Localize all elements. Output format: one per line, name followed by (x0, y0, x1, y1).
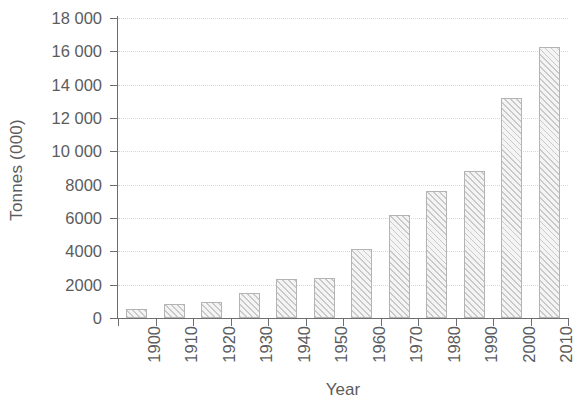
y-tick-mark (110, 51, 118, 52)
bar (276, 279, 297, 318)
y-axis-title: Tonnes (000) (0, 0, 34, 340)
bar (351, 249, 372, 318)
y-tick-label: 4000 (65, 242, 102, 261)
x-tick-mark (456, 319, 457, 326)
y-tick-mark (110, 18, 118, 19)
x-tick-mark (156, 319, 157, 326)
y-tick-mark (110, 218, 118, 219)
bar (464, 171, 485, 318)
y-tick-mark (110, 185, 118, 186)
y-axis-tick-labels: 0200040006000800010 00012 00014 00016 00… (36, 0, 108, 411)
x-tick-mark (193, 319, 194, 326)
x-tick-label: 1970 (407, 326, 425, 386)
x-tick-mark (118, 319, 119, 326)
y-tick-mark (110, 151, 118, 152)
x-tick-label: 1930 (257, 326, 275, 386)
x-tick-mark (343, 319, 344, 326)
y-tick-label: 8000 (65, 175, 102, 194)
y-tick-label: 16 000 (52, 42, 102, 61)
bar (126, 309, 147, 318)
x-tick-label: 1900 (145, 326, 163, 386)
x-tick-label: 2010 (557, 326, 575, 386)
x-tick-mark (268, 319, 269, 326)
y-tick-label: 2000 (65, 275, 102, 294)
y-tick-label: 12 000 (52, 109, 102, 128)
x-tick-mark (418, 319, 419, 326)
y-tick-label: 6000 (65, 209, 102, 228)
x-tick-label: 1990 (482, 326, 500, 386)
y-tick-mark (110, 118, 118, 119)
y-tick-mark (110, 285, 118, 286)
x-tick-label: 1980 (445, 326, 463, 386)
x-tick-mark (493, 319, 494, 326)
x-tick-label: 1910 (182, 326, 200, 386)
x-tick-label: 1960 (370, 326, 388, 386)
x-tick-label: 1950 (332, 326, 350, 386)
bar-series (118, 18, 568, 318)
bar (201, 302, 222, 318)
bar (539, 47, 560, 318)
x-tick-mark (231, 319, 232, 326)
y-tick-label: 0 (93, 309, 102, 328)
x-tick-label: 1920 (220, 326, 238, 386)
x-tick-mark (306, 319, 307, 326)
bar (501, 98, 522, 318)
y-tick-mark (110, 251, 118, 252)
bar (239, 293, 260, 318)
x-axis-title: Year (118, 380, 568, 400)
x-tick-label: 1940 (295, 326, 313, 386)
y-tick-label: 14 000 (52, 75, 102, 94)
bar (426, 191, 447, 318)
y-tick-label: 18 000 (52, 9, 102, 28)
y-tick-mark (110, 85, 118, 86)
x-tick-mark (531, 319, 532, 326)
y-tick-label: 10 000 (52, 142, 102, 161)
y-axis-title-label: Tonnes (000) (7, 119, 27, 221)
bar (314, 278, 335, 319)
x-tick-mark (568, 319, 569, 326)
x-tick-mark (381, 319, 382, 326)
bar (389, 215, 410, 318)
bar (164, 304, 185, 318)
y-tick-mark (110, 318, 118, 319)
x-tick-label: 2000 (520, 326, 538, 386)
x-axis-tick-labels: 1900191019201930194019501960197019801990… (118, 326, 568, 386)
bar-chart: Tonnes (000) 0200040006000800010 00012 0… (0, 0, 579, 411)
